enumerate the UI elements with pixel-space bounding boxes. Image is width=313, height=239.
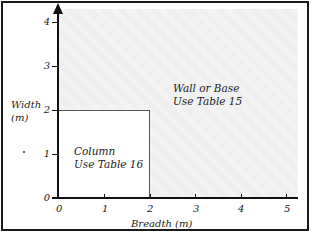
stray-dot bbox=[23, 151, 25, 153]
x-tick bbox=[150, 194, 151, 199]
x-tick-label: 1 bbox=[102, 204, 108, 214]
x-axis-title: Breadth (m) bbox=[131, 217, 192, 230]
x-tick-label: 3 bbox=[193, 204, 199, 214]
column-label-line1: Column bbox=[74, 145, 143, 158]
y-tick-label: 3 bbox=[38, 61, 50, 71]
y-axis-title: Width (m) bbox=[11, 98, 41, 124]
wall-region-label: Wall or Base Use Table 15 bbox=[173, 82, 242, 108]
column-label-line2: Use Table 16 bbox=[74, 158, 143, 171]
y-tick-label: 0 bbox=[38, 193, 50, 203]
x-tick-label: 2 bbox=[147, 204, 153, 214]
wall-label-line1: Wall or Base bbox=[173, 82, 242, 95]
y-axis-title-line1: Width bbox=[11, 98, 41, 111]
x-tick-label: 4 bbox=[238, 204, 244, 214]
x-tick bbox=[195, 194, 196, 199]
x-tick-label: 0 bbox=[56, 204, 62, 214]
x-tick bbox=[241, 194, 242, 199]
column-region-label: Column Use Table 16 bbox=[74, 145, 143, 171]
y-tick bbox=[52, 22, 57, 23]
y-tick bbox=[52, 66, 57, 67]
x-tick-label: 5 bbox=[284, 204, 290, 214]
x-axis bbox=[52, 197, 298, 199]
y-tick bbox=[52, 110, 57, 111]
y-tick-label: 1 bbox=[38, 149, 50, 159]
y-axis bbox=[57, 10, 59, 199]
y-tick-label: 4 bbox=[38, 17, 50, 27]
x-tick bbox=[104, 194, 105, 199]
x-tick bbox=[286, 194, 287, 199]
wall-label-line2: Use Table 15 bbox=[173, 95, 242, 108]
y-axis-title-line2: (m) bbox=[11, 111, 41, 124]
y-axis-arrow-icon bbox=[53, 3, 63, 14]
y-tick bbox=[52, 154, 57, 155]
